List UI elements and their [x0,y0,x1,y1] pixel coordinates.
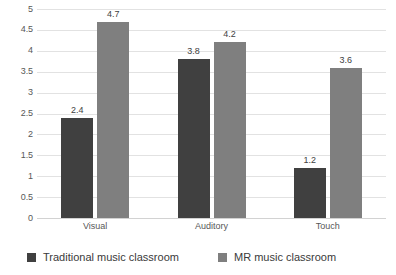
x-axis-tick-label: Touch [270,221,386,232]
legend-swatch-icon [27,253,36,262]
y-axis-tick-label: 2.5 [1,109,33,118]
bar: 4.7 [97,22,129,218]
bar-value-label: 3.8 [187,47,200,56]
bar-value-label: 2.4 [71,106,84,115]
y-axis: 54.543.532.521.510.50 [0,9,33,218]
bar-group: 2.44.7 [61,9,129,218]
bars-layer: 2.44.73.84.21.23.6 [37,9,386,218]
bar: 4.2 [214,42,246,218]
bar: 3.6 [330,68,362,218]
y-axis-tick-label: 4 [1,46,33,55]
x-axis: VisualAuditoryTouch [37,221,386,237]
y-axis-tick-label: 1.5 [1,151,33,160]
y-axis-tick-label: 3.5 [1,67,33,76]
bar-group: 3.84.2 [178,9,246,218]
gridline [37,218,386,219]
y-axis-tick-label: 0.5 [1,193,33,202]
y-axis-tick-label: 5 [1,5,33,14]
y-axis-tick-label: 0 [1,214,33,223]
legend-item[interactable]: Traditional music classroom [27,251,179,264]
bar-value-label: 1.2 [304,156,317,165]
bar-chart: 54.543.532.521.510.50 2.44.73.84.21.23.6… [0,0,396,275]
y-axis-tick-label: 4.5 [1,25,33,34]
legend-label: Traditional music classroom [43,251,179,264]
y-axis-tick-label: 2 [1,130,33,139]
bar-value-label: 4.2 [223,30,236,39]
y-axis-tick-label: 3 [1,88,33,97]
legend-swatch-icon [218,253,227,262]
y-axis-tick-label: 1 [1,172,33,181]
legend-item[interactable]: MR music classroom [218,251,336,264]
bar-group: 1.23.6 [294,9,362,218]
x-axis-tick-label: Visual [37,221,153,232]
bar: 2.4 [61,118,93,218]
bar-value-label: 3.6 [340,56,353,65]
chart-legend: Traditional music classroomMR music clas… [0,251,396,271]
bar: 3.8 [178,59,210,218]
bar: 1.2 [294,168,326,218]
bar-value-label: 4.7 [107,10,120,19]
x-axis-tick-label: Auditory [153,221,269,232]
legend-label: MR music classroom [234,251,336,264]
